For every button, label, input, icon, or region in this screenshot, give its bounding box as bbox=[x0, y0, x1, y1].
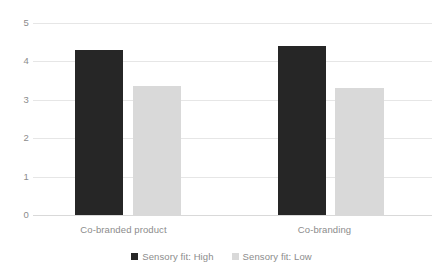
bar-co-branded-product-sensory-fit-high[interactable] bbox=[75, 50, 123, 215]
legend: Sensory fit: High Sensory fit: Low bbox=[0, 251, 443, 262]
bar-co-branded-product-sensory-fit-low[interactable] bbox=[133, 86, 181, 215]
y-tick-label-4: 4 bbox=[3, 56, 29, 66]
y-tick-label-2: 2 bbox=[3, 133, 29, 143]
gridline-0-baseline bbox=[33, 215, 432, 216]
legend-item-sensory-fit-high[interactable]: Sensory fit: High bbox=[131, 251, 213, 262]
legend-label-low: Sensory fit: Low bbox=[243, 251, 312, 262]
plot-area bbox=[33, 23, 432, 215]
y-axis: 5 4 3 2 1 0 bbox=[0, 23, 29, 215]
bar-co-branding-sensory-fit-high[interactable] bbox=[278, 46, 326, 215]
bar-co-branding-sensory-fit-low[interactable] bbox=[335, 88, 384, 215]
y-tick-label-5: 5 bbox=[3, 18, 29, 28]
x-axis-label-co-branding: Co-branding bbox=[234, 224, 415, 236]
legend-swatch-icon-low bbox=[232, 253, 239, 260]
legend-swatch-icon-high bbox=[131, 253, 138, 260]
legend-item-sensory-fit-low[interactable]: Sensory fit: Low bbox=[232, 251, 312, 262]
y-tick-label-1: 1 bbox=[3, 172, 29, 182]
x-axis-label-co-branded-product: Co-branded product bbox=[33, 224, 214, 236]
gridline-5 bbox=[33, 23, 432, 24]
y-tick-label-3: 3 bbox=[3, 95, 29, 105]
legend-label-high: Sensory fit: High bbox=[142, 251, 213, 262]
bar-chart: 5 4 3 2 1 0 Co-branded product Co-brandi… bbox=[0, 0, 443, 270]
y-tick-label-0: 0 bbox=[3, 210, 29, 220]
